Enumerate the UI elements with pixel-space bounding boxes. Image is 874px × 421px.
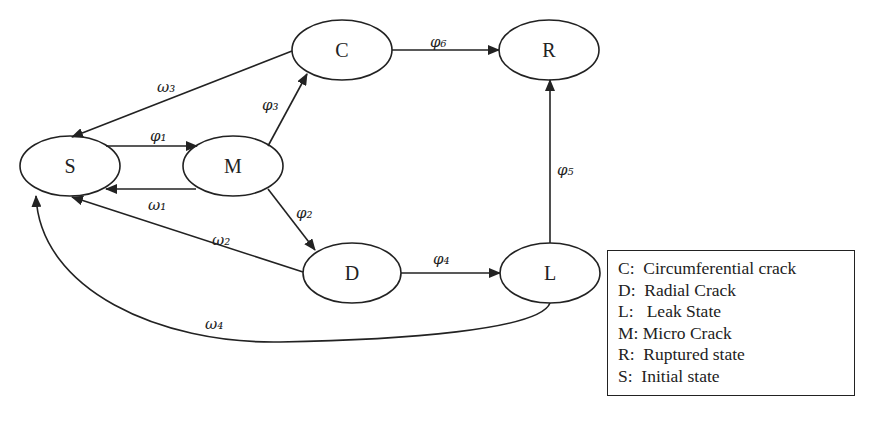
edge-L-to-R: φ₅	[550, 80, 574, 243]
edge-M-to-C: φ₃	[262, 74, 307, 146]
edge-D-to-S: ω₂	[72, 197, 303, 272]
svg-text:φ₆: φ₆	[430, 33, 447, 51]
svg-text:φ₂: φ₂	[296, 204, 313, 222]
node-S: S	[20, 136, 120, 196]
legend-item-R: R: Ruptured state	[618, 344, 854, 366]
edge-C-to-S: ω₃	[72, 51, 292, 137]
svg-text:C: C	[335, 39, 348, 61]
svg-text:M: M	[224, 155, 242, 177]
svg-text:D: D	[345, 262, 359, 284]
node-R: R	[499, 20, 599, 80]
svg-text:φ₄: φ₄	[433, 250, 450, 268]
legend-item-D: D: Radial Crack	[618, 280, 854, 302]
edge-M-to-D: φ₂	[268, 189, 315, 250]
node-L: L	[500, 243, 600, 303]
edge-M-to-S: ω₁	[106, 189, 196, 214]
svg-text:φ₁: φ₁	[150, 127, 167, 145]
svg-text:L: L	[544, 262, 556, 284]
svg-text:φ₃: φ₃	[262, 96, 279, 114]
edge-S-to-M: φ₁	[106, 127, 197, 146]
node-C: C	[292, 20, 392, 80]
node-D: D	[303, 243, 401, 303]
edge-C-to-R: φ₆	[392, 33, 499, 51]
legend-item-C: C: Circumferential crack	[618, 258, 854, 280]
legend-item-L: L: Leak State	[618, 301, 854, 323]
edge-D-to-L: φ₄	[401, 250, 500, 273]
svg-text:ω₁: ω₁	[148, 196, 166, 214]
legend-box: C: Circumferential crack D: Radial Crack…	[607, 250, 855, 396]
svg-text:ω₂: ω₂	[212, 231, 230, 249]
svg-text:ω₄: ω₄	[205, 315, 223, 333]
svg-text:ω₃: ω₃	[157, 78, 175, 96]
legend-item-S: S: Initial state	[618, 366, 854, 388]
svg-text:S: S	[64, 155, 75, 177]
svg-text:R: R	[542, 39, 556, 61]
svg-text:φ₅: φ₅	[557, 161, 574, 179]
legend-item-M: M: Micro Crack	[618, 323, 854, 345]
